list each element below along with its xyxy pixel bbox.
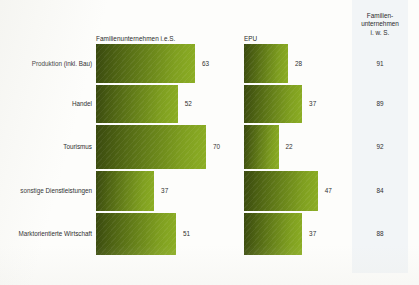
column3-header: Familien- unternehmen i. w. S.	[352, 12, 408, 37]
bar-value-series2: 28	[295, 60, 302, 67]
column3-header-line1: Familien-	[352, 12, 408, 20]
bar-value-series1: 63	[202, 60, 209, 67]
bar-value-series2: 47	[325, 187, 332, 194]
column3-header-line3: i. w. S.	[352, 29, 408, 37]
bar-series2	[244, 44, 288, 83]
bar-series1	[96, 125, 206, 169]
bar-value-series2: 37	[309, 100, 316, 107]
category-label: sonstige Dienstleistungen	[0, 187, 92, 194]
column3-value: 84	[352, 187, 408, 194]
column3-value: 88	[352, 230, 408, 237]
bar-series1	[96, 85, 178, 123]
bar-series2	[244, 85, 302, 123]
bar-series2	[244, 171, 318, 211]
bar-series1	[96, 171, 154, 211]
column3-value: 91	[352, 60, 408, 67]
column3-value: 89	[352, 100, 408, 107]
category-label: Handel	[0, 100, 92, 107]
series1-header: Familienunternehmen i.e.S.	[96, 35, 175, 42]
bar-value-series1: 70	[213, 143, 220, 150]
bar-value-series1: 51	[183, 230, 190, 237]
bar-value-series1: 52	[185, 100, 192, 107]
bar-value-series2: 22	[286, 143, 293, 150]
bar-series1	[96, 213, 176, 255]
bar-series2	[244, 125, 279, 169]
bar-series2	[244, 213, 302, 255]
category-label: Tourismus	[0, 143, 92, 150]
chart-container: Familienunternehmen i.e.S. EPU Familien-…	[0, 0, 419, 285]
category-label: Produktion (inkl. Bau)	[0, 60, 92, 67]
category-label: Marktorientierte Wirtschaft	[0, 230, 92, 237]
column3-value: 92	[352, 143, 408, 150]
bar-series1	[96, 44, 195, 83]
bar-value-series2: 37	[309, 230, 316, 237]
bar-value-series1: 37	[161, 187, 168, 194]
column3-header-line2: unternehmen	[352, 20, 408, 28]
series2-header: EPU	[244, 35, 257, 42]
